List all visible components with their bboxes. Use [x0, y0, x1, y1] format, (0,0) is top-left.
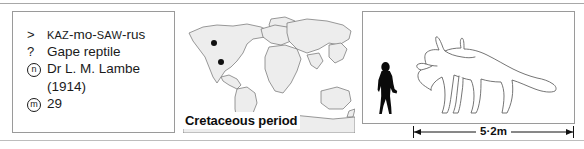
circled-m-glyph: m: [27, 98, 41, 112]
central-america-shape: [221, 75, 241, 89]
pron-part-5: SAW: [97, 29, 122, 41]
named-by-row: n Dr L. M. Lambe: [13, 61, 174, 79]
world-map-panel: Cretaceous period: [183, 11, 355, 133]
find-site-dot: [218, 59, 224, 65]
size-comparison-panel: [362, 11, 575, 124]
scale-length-label: 5·2m: [412, 125, 575, 137]
new-zealand-shape: [347, 109, 355, 117]
named-year-text: (1914): [13, 79, 174, 96]
pron-part-7: rus: [127, 27, 146, 42]
circled-m-icon: m: [27, 96, 47, 113]
scale-length-value: 5·2m: [476, 125, 511, 137]
human-silhouette: [378, 62, 398, 114]
top-divider-rule: [0, 3, 584, 4]
pronunciation-marker-icon: >: [27, 27, 47, 43]
question-mark-icon: ?: [27, 44, 47, 60]
pronunciation-text: KAZ-mo-SAW-rus: [47, 27, 145, 43]
size-comparison-graphic: [363, 12, 574, 123]
circled-n-icon: n: [27, 61, 47, 78]
museum-number-row: m 29: [13, 96, 174, 114]
named-by-text: Dr L. M. Lambe: [47, 61, 140, 77]
dinosaur-fact-figure: > KAZ-mo-SAW-rus ? Gape reptile n Dr L. …: [0, 0, 584, 149]
pron-part-3: mo: [74, 27, 93, 42]
east-asia-shape: [329, 43, 347, 63]
meaning-text: Gape reptile: [47, 44, 121, 60]
geologic-period-label: Cretaceous period: [183, 112, 300, 129]
find-site-dot: [211, 40, 217, 46]
pronunciation-row: > KAZ-mo-SAW-rus: [13, 27, 174, 44]
ceratopsian-dinosaur-outline: [417, 37, 556, 113]
north-america-shape: [189, 24, 269, 83]
circled-n-glyph: n: [27, 63, 41, 77]
africa-shape: [265, 45, 301, 93]
meaning-row: ? Gape reptile: [13, 44, 174, 61]
australia-shape: [321, 87, 351, 109]
species-info-panel: > KAZ-mo-SAW-rus ? Gape reptile n Dr L. …: [12, 11, 175, 133]
pron-part-1: KAZ: [47, 29, 69, 41]
species-info-list: > KAZ-mo-SAW-rus ? Gape reptile n Dr L. …: [13, 12, 174, 114]
scale-bar: 5·2m: [412, 124, 575, 142]
museum-number-text: 29: [47, 96, 62, 112]
india-shape: [307, 53, 323, 69]
